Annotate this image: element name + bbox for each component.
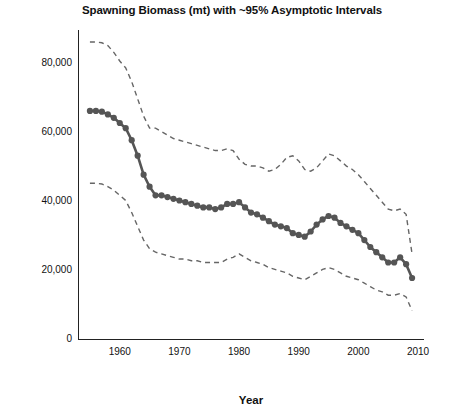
y-tick-label: 0 xyxy=(2,333,72,344)
data-point xyxy=(93,108,99,114)
x-axis-label: Year xyxy=(78,394,424,404)
data-point xyxy=(158,192,164,198)
data-point xyxy=(123,125,129,131)
data-point xyxy=(206,204,212,210)
upper-interval-line xyxy=(90,42,412,254)
data-point xyxy=(349,227,355,233)
data-point xyxy=(296,232,302,238)
data-point xyxy=(141,172,147,178)
data-point xyxy=(403,261,409,267)
data-point xyxy=(355,230,361,236)
chart-container: Spawning Biomass (mt) with ~95% Asymptot… xyxy=(0,0,464,404)
data-point xyxy=(272,222,278,228)
data-point xyxy=(284,225,290,231)
data-point xyxy=(182,199,188,205)
plot-area: 020,00040,00060,00080,000 19601970198019… xyxy=(78,30,424,340)
data-point xyxy=(236,199,242,205)
series-group xyxy=(87,42,415,311)
data-point xyxy=(397,254,403,260)
data-point xyxy=(248,209,254,215)
data-point xyxy=(319,216,325,222)
data-point xyxy=(188,201,194,207)
data-point xyxy=(331,215,337,221)
x-tick-label: 2010 xyxy=(393,346,443,357)
data-point xyxy=(409,275,415,281)
y-tick-label: 80,000 xyxy=(2,57,72,68)
data-point xyxy=(164,194,170,200)
data-point xyxy=(385,259,391,265)
data-point xyxy=(224,201,230,207)
data-point xyxy=(302,234,308,240)
data-point xyxy=(379,254,385,260)
plot-frame xyxy=(78,30,424,340)
x-tick-label: 1990 xyxy=(274,346,324,357)
data-point xyxy=(200,204,206,210)
data-point xyxy=(314,222,320,228)
x-tick-label: 1960 xyxy=(95,346,145,357)
data-point xyxy=(361,237,367,243)
data-point xyxy=(170,196,176,202)
data-point xyxy=(343,223,349,229)
spawning-biomass-line xyxy=(90,111,412,278)
y-tick-label: 20,000 xyxy=(2,264,72,275)
data-point xyxy=(290,230,296,236)
lower-interval-line xyxy=(90,183,412,310)
data-point xyxy=(87,108,93,114)
y-tick-label: 60,000 xyxy=(2,126,72,137)
data-point xyxy=(260,215,266,221)
data-point xyxy=(218,204,224,210)
y-tick-label: 40,000 xyxy=(2,195,72,206)
data-point xyxy=(230,201,236,207)
data-point xyxy=(325,213,331,219)
data-point xyxy=(194,203,200,209)
data-point xyxy=(308,228,314,234)
data-point xyxy=(242,204,248,210)
data-point xyxy=(152,192,158,198)
data-point xyxy=(391,259,397,265)
spawning-biomass-markers xyxy=(87,108,415,281)
data-point xyxy=(367,244,373,250)
x-tick-label: 1970 xyxy=(154,346,204,357)
data-point xyxy=(105,111,111,117)
chart-title: Spawning Biomass (mt) with ~95% Asymptot… xyxy=(0,4,464,16)
data-point xyxy=(337,220,343,226)
data-point xyxy=(111,115,117,121)
x-tick-label: 2000 xyxy=(333,346,383,357)
data-point xyxy=(129,137,135,143)
data-point xyxy=(117,120,123,126)
data-point xyxy=(135,153,141,159)
data-point xyxy=(212,206,218,212)
x-tick-label: 1980 xyxy=(214,346,264,357)
data-point xyxy=(146,184,152,190)
data-point xyxy=(278,223,284,229)
data-point xyxy=(176,197,182,203)
data-point xyxy=(373,249,379,255)
data-point xyxy=(254,211,260,217)
data-point xyxy=(99,109,105,115)
data-point xyxy=(266,218,272,224)
